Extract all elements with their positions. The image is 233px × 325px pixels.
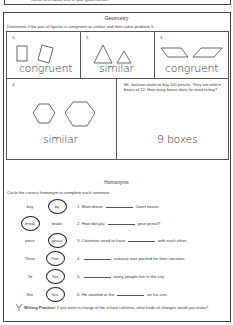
sentence: 3. Countries need to havewith each other…: [77, 238, 187, 243]
answer-handwriting: congruent: [165, 62, 218, 75]
homonym-row-5: To Too 5.many people live in the city.: [0, 271, 233, 281]
circle-mark: [21, 216, 40, 231]
sentence: 1. Mom droveJanet house.: [77, 204, 160, 209]
problem-3-cell: 3. congruent: [154, 31, 229, 79]
answer-handwriting: congruent: [19, 62, 72, 75]
answer-handwriting: similar: [43, 133, 78, 146]
option-left[interactable]: flee: [20, 292, 40, 297]
writing-practice: Writing Practice: If you were in charge …: [24, 305, 214, 311]
problem-number: 2.: [86, 35, 89, 40]
problem-1-cell: 1. congruent: [6, 31, 81, 79]
sentence: 4.suitcase was packed for their vacation…: [77, 256, 185, 261]
homonym-row-4: There Their 4.suitcase was packed for th…: [0, 253, 233, 263]
problem-2-cell: 2. similar: [80, 31, 155, 79]
homonyms-instruction: Circle the correct homonym to complete e…: [7, 190, 111, 195]
option-left[interactable]: buy: [20, 204, 40, 209]
circle-mark: [48, 233, 67, 248]
circle-mark: [46, 251, 65, 266]
geometry-instruction: Determine if the pair of figures is cong…: [7, 24, 155, 29]
previous-section-text: friend, write about one of your good fri…: [31, 0, 108, 2]
writing-practice-prompt: If you were in charge of the school cafe…: [57, 305, 208, 310]
option-left[interactable]: There: [20, 256, 40, 261]
homonym-row-1: buy by 1. Mom droveJanet house.: [0, 201, 233, 211]
geometry-title: Geometry: [0, 15, 233, 21]
writing-practice-label: Writing Practice:: [24, 305, 56, 310]
circle-mark: [46, 287, 65, 302]
sentence: 2. How did youyour pencil?: [77, 221, 160, 226]
problem-number: 4.: [12, 82, 15, 87]
answer-handwriting: 9 boxes: [157, 133, 197, 146]
circle-mark: [48, 199, 67, 214]
option-right[interactable]: brake: [47, 221, 67, 226]
sentence: 5.many people live in the city.: [77, 274, 165, 279]
homonym-row-2: break brake 2. How did youyour pencil?: [0, 218, 233, 228]
problem-5-text: Mr. Jackson wants to buy 100 pencils. Th…: [124, 82, 224, 93]
homonyms-title: Homonyms: [0, 180, 233, 185]
hexagons-figure: [25, 101, 105, 136]
pencil-icon: [15, 303, 24, 312]
homonym-row-3: piece peace 3. Countries need to havewit…: [0, 235, 233, 245]
parallelograms-figure: [159, 44, 227, 62]
problem-number: 3.: [160, 35, 163, 40]
answer-handwriting: similar: [99, 62, 134, 75]
option-left[interactable]: To: [20, 274, 40, 279]
previous-section-box: friend, write about one of your good fri…: [4, 0, 231, 5]
problem-4-cell: 4. similar: [6, 78, 117, 160]
problem-number: 1.: [12, 35, 15, 40]
homonym-row-6: flee flea 6. He swatted at theon his arm…: [0, 289, 233, 299]
problem-5-cell: Mr. Jackson wants to buy 100 pencils. Th…: [116, 78, 229, 160]
circle-mark: [46, 269, 65, 284]
option-left[interactable]: piece: [20, 238, 40, 243]
sentence: 6. He swatted at theon his arm.: [77, 292, 168, 297]
